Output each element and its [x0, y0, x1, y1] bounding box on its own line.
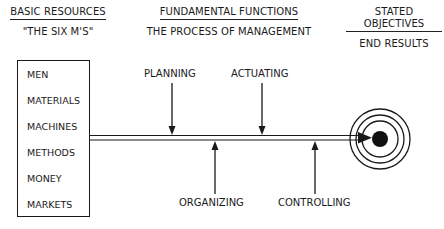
- function-label-organizing: ORGANIZING: [179, 197, 244, 208]
- planning-arrow-icon: [169, 83, 176, 135]
- controlling-arrow-icon: [312, 141, 319, 194]
- function-label-actuating: ACTUATING: [231, 68, 288, 79]
- process-arrowhead-icon: [358, 132, 372, 144]
- process-diagram: [0, 0, 444, 229]
- organizing-arrow-icon: [212, 141, 219, 194]
- function-label-planning: PLANNING: [144, 68, 196, 79]
- function-label-controlling: CONTROLLING: [278, 197, 351, 208]
- process-line: [90, 132, 372, 144]
- actuating-arrow-icon: [259, 83, 266, 135]
